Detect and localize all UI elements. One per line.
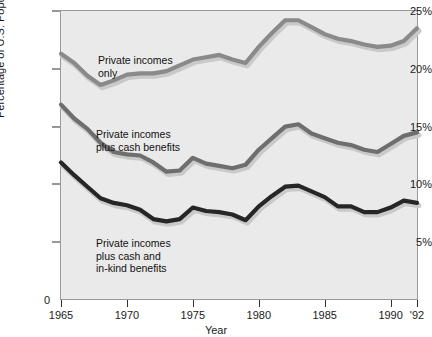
x-axis-tick-label: 1990 [378,309,402,321]
y-axis-zero-label: 0 [44,294,50,306]
x-axis-tick-label: 1980 [247,309,271,321]
x-axis-tick-mark [193,300,194,307]
y-axis-tick-mark [52,68,60,69]
y-axis-tick-label: 15% [384,121,432,133]
y-axis-tick-label: 10% [384,178,432,190]
x-axis-tick-label: 1970 [115,309,139,321]
truncated-header-strip: — — — — — — — — — — [0,0,432,7]
y-axis-tick-mark [52,11,60,12]
x-axis-tick-label: 1975 [181,309,205,321]
y-axis-tick-mark [52,126,60,127]
x-axis-label: Year [0,324,432,336]
chart-figure: — — — — — — — — — — Percentage of U.S. P… [0,0,432,337]
annotation-plus-cash: Private incomes plus cash benefits [96,128,180,153]
y-axis-tick-label: 20% [384,63,432,75]
x-axis-tick-label: 1985 [312,309,336,321]
x-axis-tick-mark [259,300,260,307]
y-axis-tick-label: 25% [384,5,432,17]
x-axis-tick-mark [127,300,128,307]
y-axis-tick-label: 5% [384,236,432,248]
y-axis-tick-mark [52,242,60,243]
x-axis-tick-label: 1965 [49,309,73,321]
x-axis-tick-mark [391,300,392,307]
y-axis: Percentage of U.S. Population in Poverty [0,0,57,337]
x-axis-tick-mark [417,300,418,307]
x-axis-tick-mark [61,300,62,307]
y-axis-label: Percentage of U.S. Population in Poverty [0,0,6,118]
annotation-private-only: Private incomes only [98,54,173,79]
annotation-plus-cash-inkind: Private incomes plus cash and in-kind be… [96,237,171,275]
x-axis-tick-label: '92 [410,309,424,321]
x-axis-tick-mark [325,300,326,307]
y-axis-tick-mark [52,184,60,185]
